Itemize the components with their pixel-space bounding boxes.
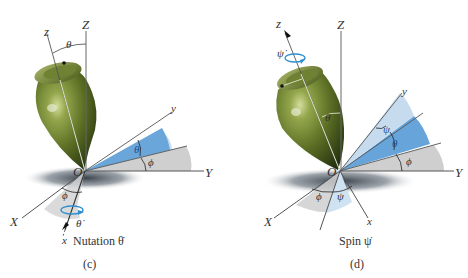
label-z-c: z <box>44 25 49 38</box>
label-X-c: X <box>10 215 18 228</box>
panel-d <box>262 30 454 230</box>
spinning-top-c <box>32 58 96 170</box>
label-theta-body-d: θ <box>325 112 330 123</box>
label-psi-dot-d: ψ̇ <box>277 48 284 59</box>
label-O-c: O <box>73 165 82 178</box>
label-theta-top-c: θ <box>66 39 71 50</box>
label-O-d: O <box>327 165 336 178</box>
label-theta-dot-c: θ̇ <box>76 218 81 229</box>
label-psi-bottom-d: ψ <box>337 191 344 202</box>
caption-c: (c) <box>83 258 96 270</box>
label-z-d: z <box>276 17 281 30</box>
caption-d: (d) <box>350 258 364 270</box>
label-x-d: x <box>367 216 372 227</box>
label-phi-sector-c: ϕ <box>148 157 154 168</box>
label-psi-sector-d: ψ <box>383 124 390 135</box>
label-X-d: X <box>264 215 272 228</box>
label-y-c: y <box>171 103 176 114</box>
label-Z-d: Z <box>337 18 344 31</box>
label-Z-c: Z <box>82 18 89 31</box>
label-theta-sector-c: θ <box>134 144 139 155</box>
label-y-d: y <box>402 86 407 97</box>
label-x-c: x <box>62 235 67 246</box>
label-Y-c: Y <box>205 166 212 179</box>
panel-c <box>20 31 204 263</box>
label-phi-bottom-d: ϕ <box>316 191 322 202</box>
motion-label-spin: Spin ψ̇ <box>339 235 372 247</box>
spinning-top-d <box>274 61 344 170</box>
label-Y-d: Y <box>455 166 462 179</box>
label-theta-sector-d: θ <box>392 138 397 149</box>
motion-label-nutation: Nutation θ̇ <box>73 235 124 247</box>
label-phi-sector-d: ϕ <box>406 156 412 167</box>
label-phi-bottom-c: ϕ <box>62 190 68 201</box>
